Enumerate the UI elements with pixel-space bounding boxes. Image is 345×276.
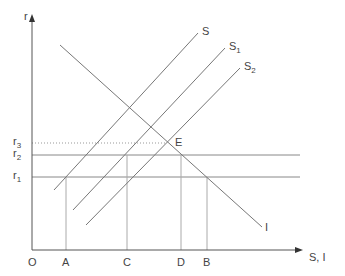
curve-s1 xyxy=(73,48,225,210)
savings-investment-diagram: r S, I O r3r2r1ACDBSS1S2IE xyxy=(0,0,345,276)
y-axis-label: r xyxy=(24,10,28,22)
curve-i xyxy=(60,45,262,227)
x-axis-arrow-icon xyxy=(295,247,303,253)
x-point-label-a: A xyxy=(62,256,70,268)
x-point-label-d: D xyxy=(177,256,185,268)
y-axis-arrow-icon xyxy=(29,14,35,22)
origin-label: O xyxy=(28,256,37,268)
curve-s2 xyxy=(86,68,240,225)
x-point-label-c: C xyxy=(123,256,131,268)
labels: r3r2r1ACDBSS1S2IE xyxy=(13,25,268,268)
equilibrium-label: E xyxy=(175,136,182,148)
reference-lines xyxy=(32,143,300,250)
x-point-label-b: B xyxy=(203,256,210,268)
curve-s xyxy=(54,33,198,190)
curves xyxy=(54,33,262,227)
curve-label-s: S xyxy=(202,25,209,37)
rate-label-r1: r1 xyxy=(13,169,22,184)
curve-label-s2: S2 xyxy=(244,60,256,75)
curve-label-s1: S1 xyxy=(229,40,241,55)
curve-label-i: I xyxy=(265,221,268,233)
x-axis-label: S, I xyxy=(309,251,326,263)
